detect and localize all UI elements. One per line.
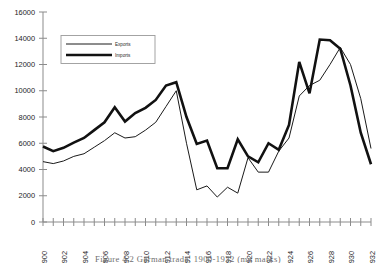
legend-box	[61, 36, 155, 64]
figure-caption: Figure 4.2 German trade, 1900-1932 (mn m…	[95, 254, 281, 263]
y-tick-label: 10000	[14, 86, 35, 95]
legend: Exports Imports	[61, 36, 155, 64]
figure-german-trade: 0 2000 4000 6000 8000 10000 12000 14000 …	[0, 0, 377, 263]
line-chart: 0 2000 4000 6000 8000 10000 12000 14000 …	[0, 0, 377, 263]
x-tick-label: 1930	[347, 251, 356, 263]
y-tick-label: 0	[31, 218, 35, 227]
x-tick-label: 1924	[286, 251, 295, 263]
series-line-exports	[43, 47, 371, 197]
x-tick-label: 1900	[40, 251, 49, 263]
y-tick-label: 8000	[19, 113, 35, 122]
y-tick-label: 2000	[19, 191, 35, 200]
legend-label-imports: Imports	[115, 53, 131, 58]
legend-label-exports: Exports	[115, 42, 131, 47]
x-tick-label: 1904	[81, 251, 90, 263]
y-tick-label: 12000	[14, 60, 35, 69]
y-tick-label: 16000	[14, 8, 35, 17]
x-tick-label: 1926	[306, 251, 315, 263]
x-tick-label: 1902	[60, 251, 69, 263]
y-tick-label: 6000	[19, 139, 35, 148]
y-tick-label: 4000	[19, 165, 35, 174]
y-tick-labels: 0 2000 4000 6000 8000 10000 12000 14000 …	[14, 8, 35, 227]
y-tick-label: 14000	[14, 34, 35, 43]
x-tick-label: 1928	[327, 251, 336, 263]
y-axis: 0 2000 4000 6000 8000 10000 12000 14000 …	[14, 8, 47, 227]
x-tick-label: 1932	[368, 251, 377, 263]
